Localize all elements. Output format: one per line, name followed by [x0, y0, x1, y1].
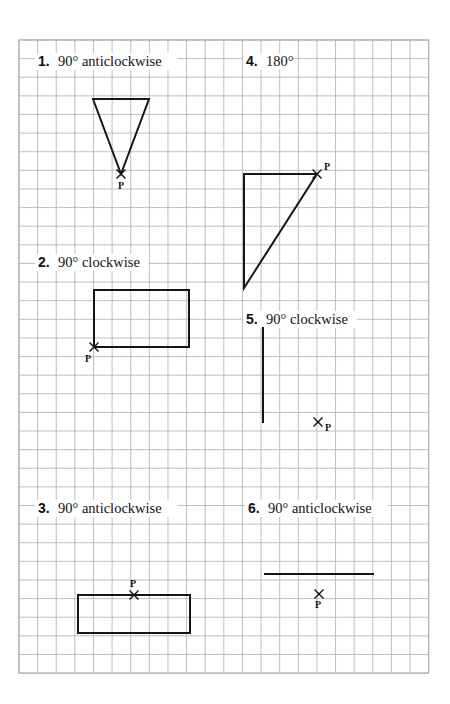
question-label: 5.90° clockwise	[243, 311, 357, 328]
question-label: 1.90° anticlockwise	[35, 53, 177, 70]
triangle-shape	[244, 174, 317, 288]
question-number: 2.	[38, 254, 50, 270]
question-number: 1.	[38, 53, 50, 69]
question-label: 2.90° clockwise	[35, 254, 149, 271]
questions-group: 1.90° anticlockwiseP2.90° clockwiseP3.90…	[35, 53, 387, 633]
cross-mark-icon	[117, 170, 126, 179]
centre-of-rotation-label: P	[315, 599, 321, 610]
question-5: 5.90° clockwiseP	[243, 311, 357, 433]
triangle-shape	[93, 99, 149, 174]
rotation-worksheet: 1.90° anticlockwiseP2.90° clockwiseP3.90…	[0, 0, 450, 704]
centre-of-rotation-label: P	[325, 422, 331, 433]
question-6: 6.90° anticlockwiseP	[245, 500, 387, 610]
question-number: 4.	[246, 53, 258, 69]
grid-paper: 1.90° anticlockwiseP2.90° clockwiseP3.90…	[0, 0, 450, 704]
question-number: 5.	[246, 311, 258, 327]
centre-of-rotation-label: P	[130, 578, 136, 589]
rotation-instruction: 90° anticlockwise	[58, 53, 162, 69]
rotation-instruction: 90° clockwise	[266, 311, 348, 327]
rotation-instruction: 90° clockwise	[58, 254, 140, 270]
rotation-instruction: 180°	[266, 53, 294, 69]
cross-mark-icon	[315, 590, 324, 599]
question-number: 6.	[248, 500, 260, 516]
question-number: 3.	[38, 500, 50, 516]
rectangle-shape	[78, 595, 190, 633]
centre-of-rotation-label: P	[85, 353, 91, 364]
rotation-instruction: 90° anticlockwise	[268, 500, 372, 516]
question-label: 3.90° anticlockwise	[35, 500, 177, 517]
cross-mark-icon	[314, 418, 323, 427]
rectangle-shape	[94, 290, 189, 347]
question-label: 4.180°	[243, 53, 294, 70]
square-grid	[19, 40, 429, 673]
question-label: 6.90° anticlockwise	[245, 500, 387, 517]
rotation-instruction: 90° anticlockwise	[58, 500, 162, 516]
centre-of-rotation-label: P	[324, 161, 330, 172]
centre-of-rotation-label: P	[118, 180, 124, 191]
